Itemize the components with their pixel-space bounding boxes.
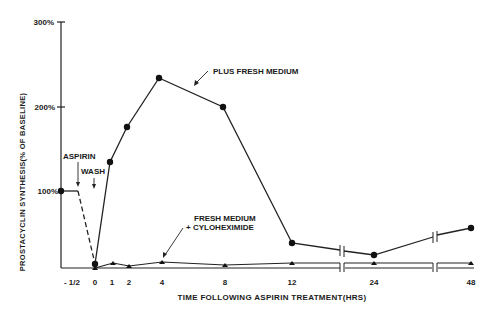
point-marker: [220, 104, 226, 110]
arrowhead-icon: [92, 184, 96, 189]
x-axis-label: TIME FOLLOWING ASPIRIN TREATMENT(HRS): [178, 293, 367, 302]
x-tick-label-1: 1: [110, 278, 115, 287]
x-tick-label-48: 48: [467, 278, 476, 287]
point-marker: [468, 225, 474, 231]
point-marker: [371, 252, 377, 258]
arrow-cycloheximide-icon: [165, 228, 183, 255]
x-tick-label-4: 4: [160, 278, 165, 287]
x-tick-label-2: 2: [127, 278, 132, 287]
annotation-plus-fresh-medium: PLUS FRESH MEDIUM: [213, 67, 299, 76]
x-tick-label-0: 0: [93, 278, 98, 287]
arrow-plus-fresh-icon: [196, 71, 208, 83]
y-tick-label-200: 200%: [35, 103, 55, 112]
point-marker: [58, 188, 64, 194]
x-tick-label-8: 8: [223, 278, 228, 287]
y-axis-label: PROSTACYCLIN SYNTHESIS(% OF BASELINE): [18, 93, 27, 272]
x-tick-label-neg-half: - 1/2: [64, 278, 81, 287]
y-tick-label-300: 300%: [34, 18, 54, 27]
y-tick-label-100: 100%: [38, 187, 58, 196]
series-plus-fresh-medium: [58, 75, 474, 267]
arrowhead-icon: [76, 182, 80, 187]
point-marker: [156, 75, 162, 81]
dashed-segment: [78, 191, 95, 264]
point-marker: [124, 124, 130, 130]
annotation-cycloheximide: + CYLOHEXIMIDE: [186, 223, 254, 232]
point-marker: [289, 240, 295, 246]
annotation-aspirin: ASPIRIN: [63, 152, 96, 161]
annotation-wash: WASH: [81, 167, 105, 176]
annotation-fresh-medium: FRESH MEDIUM: [194, 214, 256, 223]
x-tick-label-24: 24: [370, 278, 379, 287]
point-marker: [107, 159, 113, 165]
prostacyclin-chart: 300% 200% 100% PROSTACYCLIN SYNTHESIS(% …: [0, 0, 488, 316]
x-tick-label-12: 12: [288, 278, 297, 287]
